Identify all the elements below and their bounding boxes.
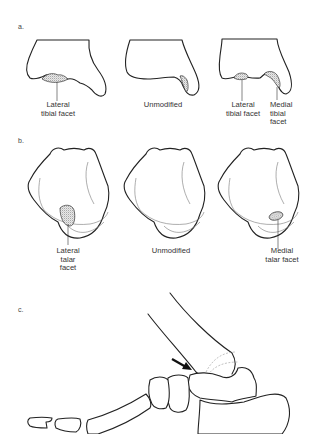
tibia-lateral-facet <box>27 40 106 101</box>
tibia-unmodified <box>126 40 199 95</box>
caption-medial-tibial-facet: Medial tibial facet <box>270 101 310 127</box>
figure: a. b. c. <box>0 0 312 434</box>
arrow-icon <box>172 359 192 370</box>
talus-medial-facet <box>218 148 299 249</box>
foot-skeleton <box>28 293 290 434</box>
talus-unmodified <box>124 148 205 238</box>
talus-lateral-facet <box>28 148 109 245</box>
caption-lateral-tibial-facet-a3: Lateral tibial facet <box>220 101 266 118</box>
illustrations <box>0 0 312 434</box>
caption-medial-talar-facet: Medial talar facet <box>258 247 306 264</box>
tibia-lateral-and-medial-facets <box>219 39 291 101</box>
caption-unmodified-b: Unmodified <box>146 247 196 256</box>
caption-unmodified-a: Unmodified <box>138 101 188 110</box>
caption-lateral-tibial-facet-a1: Lateral tibial facet <box>32 101 84 118</box>
caption-lateral-talar-facet: Lateral talar facet <box>48 247 88 273</box>
